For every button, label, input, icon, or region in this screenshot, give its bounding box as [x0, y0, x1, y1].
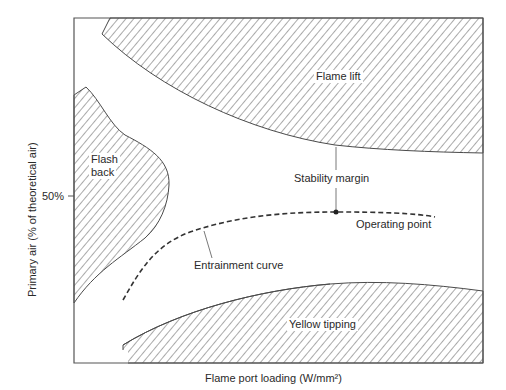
- flame-lift-region: [102, 18, 483, 153]
- operating-point-marker: [334, 210, 339, 215]
- entrainment-leader-line: [204, 231, 212, 258]
- yellow-tipping-label: Yellow tipping: [287, 318, 358, 331]
- x-axis-label: Flame port loading (W/mm²): [205, 372, 342, 385]
- y-tick-label: 50%: [42, 190, 64, 203]
- stability-diagram: [0, 0, 506, 390]
- flash-back-label-2: back: [89, 166, 116, 179]
- operating-point-label: Operating point: [356, 218, 431, 231]
- flash-back-region: [74, 87, 169, 303]
- flame-lift-label: Flame lift: [314, 70, 363, 83]
- flash-back-label-1: Flash: [89, 153, 120, 166]
- stability-margin-label: Stability margin: [294, 172, 369, 185]
- entrainment-curve-label: Entrainment curve: [194, 259, 283, 272]
- y-axis-label: Primary air (% of theoretical air): [26, 142, 38, 297]
